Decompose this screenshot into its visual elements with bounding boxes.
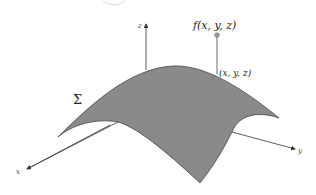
y-axis [232, 132, 295, 149]
z-axis-label: z [137, 22, 142, 30]
y-axis-label: y [297, 147, 303, 155]
function-label: f(x, y, z) [192, 19, 236, 32]
function-value-point [215, 33, 220, 38]
partial-circle-artifact [103, 1, 125, 5]
surface-sigma [58, 66, 279, 183]
surface-label: Σ [73, 92, 82, 107]
surface-integral-diagram: z x y f(x, y, z) (x, y, z) Σ [0, 0, 316, 195]
x-axis-visible [27, 125, 110, 169]
point-label: (x, y, z) [219, 68, 252, 78]
x-axis-label: x [16, 168, 20, 176]
